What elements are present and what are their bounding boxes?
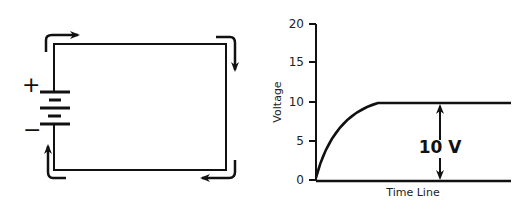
y-tick-label: 20 bbox=[289, 17, 304, 31]
diagram-canvas: + − 20 15 10 5 0 Voltage Time Line 10 V bbox=[0, 0, 531, 207]
voltage-annotation: 10 V bbox=[419, 137, 463, 157]
battery-icon bbox=[40, 92, 70, 124]
y-tick-label: 5 bbox=[296, 134, 304, 148]
y-axis-label: Voltage bbox=[271, 81, 284, 122]
negative-terminal-label: − bbox=[23, 117, 41, 142]
x-axis-label: Time Line bbox=[385, 186, 440, 199]
voltage-curve bbox=[316, 103, 511, 178]
positive-terminal-label: + bbox=[22, 72, 40, 97]
circuit-wire bbox=[54, 44, 226, 170]
current-arrow-icon bbox=[48, 146, 66, 178]
y-tick-label: 15 bbox=[289, 55, 304, 69]
circuit-diagram: + − bbox=[22, 35, 235, 178]
y-ticks bbox=[309, 24, 316, 180]
voltage-chart: 20 15 10 5 0 Voltage Time Line 10 V bbox=[271, 17, 511, 199]
y-tick-label: 0 bbox=[296, 173, 304, 187]
y-tick-label: 10 bbox=[289, 95, 304, 109]
